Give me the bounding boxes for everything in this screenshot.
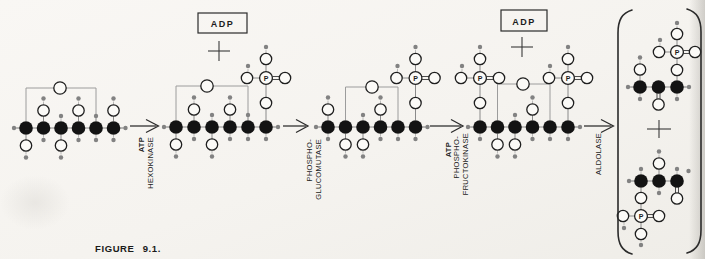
atom-labels: P	[409, 72, 422, 85]
hydrogen-dot	[566, 137, 570, 141]
bond-lines	[623, 155, 679, 243]
hydrogen-dot	[478, 137, 482, 141]
hydrogen-dot	[210, 154, 214, 158]
atom-labels: P	[671, 46, 684, 59]
oxygen-atoms	[170, 53, 290, 150]
carbon-atom	[89, 121, 103, 135]
oxygen-atom	[474, 97, 485, 108]
carbon-atom	[652, 174, 666, 188]
hydrogen-dot	[264, 45, 268, 49]
six-carbon-molecule-3: P	[314, 45, 440, 159]
six-carbon-molecule-2: P	[162, 45, 291, 159]
hydrogen-dot	[513, 113, 517, 117]
hydrogen-dot	[530, 137, 534, 141]
hydrogen-dot	[460, 64, 464, 68]
hydrogen-dot	[59, 114, 63, 118]
phosphorus-label: P	[675, 49, 680, 56]
oxygen-atom	[671, 193, 682, 204]
hydrogen-dot	[343, 154, 347, 158]
oxygen-atom	[375, 104, 386, 115]
hydrogen-dot	[314, 125, 318, 129]
hydrogen-dot	[478, 45, 482, 49]
hydrogen-dot	[638, 55, 642, 59]
oxygen-atom	[241, 72, 252, 83]
carbon-atom	[473, 120, 487, 134]
hydrogen-dot	[566, 45, 570, 49]
oxygen-atom	[429, 72, 440, 83]
hydrogen-dot	[94, 138, 98, 142]
carbon-atom	[321, 120, 335, 134]
hydrogen-dot	[687, 85, 691, 89]
carbon-atom	[374, 120, 388, 134]
hydrogen-dot	[162, 125, 166, 129]
oxygen-atoms	[455, 53, 592, 150]
carbon-atom	[356, 120, 370, 134]
oxygen-atom	[260, 53, 271, 64]
hydrogen-dot	[639, 167, 643, 171]
oxygen-atom	[509, 139, 520, 150]
hydrogen-dot	[530, 95, 534, 99]
oxygen-atom	[493, 72, 504, 83]
oxygen-atom	[617, 210, 628, 221]
oxygen-atom	[562, 53, 573, 64]
hydrogen-dot	[378, 95, 382, 99]
oxygen-atom	[340, 139, 351, 150]
carbon-atom	[543, 120, 557, 134]
adp-box-1: ADP	[198, 13, 247, 33]
adp-label-1: ADP	[211, 19, 235, 29]
carbon-atom	[409, 120, 423, 134]
oxygen-atom	[322, 104, 333, 115]
oxygen-atom	[635, 192, 646, 203]
oxygen-atom	[410, 53, 421, 64]
oxygen-atom	[653, 99, 664, 110]
hydrogen-dot	[425, 125, 429, 129]
carbon-atoms	[634, 174, 684, 188]
oxygen-atom	[653, 210, 664, 221]
oxygen-atom	[517, 78, 529, 90]
hydrogen-dot	[396, 137, 400, 141]
oxygen-atoms	[634, 28, 700, 110]
carbon-atom	[169, 120, 183, 134]
reaction-arrow-2	[283, 120, 308, 133]
hydrogen-dot	[276, 125, 280, 129]
hydrogen-dot	[228, 137, 232, 141]
hydrogen-dot	[578, 125, 582, 129]
hydrogen-dot	[228, 95, 232, 99]
oxygen-atom	[581, 72, 592, 83]
oxygen-atom	[635, 228, 646, 239]
phosphorus-label: P	[566, 75, 571, 82]
phosphorus-label: P	[264, 75, 269, 82]
carbon-atom	[508, 120, 522, 134]
hydrogen-dot	[548, 64, 552, 68]
hydrogen-dot	[395, 64, 399, 68]
plus-icon-2	[511, 37, 533, 57]
oxygen-atom	[206, 139, 217, 150]
hydrogen-dot	[675, 21, 679, 25]
hydrogen-dot	[210, 113, 214, 117]
carbon-atom	[37, 121, 51, 135]
oxygen-atom	[73, 105, 84, 116]
hydrogen-dot	[111, 96, 115, 100]
carbon-atom	[241, 120, 255, 134]
hydrogen-dot	[627, 179, 631, 183]
phosphorus-label: P	[413, 75, 418, 82]
hydrogen-dot	[24, 155, 28, 159]
hydrogen-dot	[657, 149, 661, 153]
hydrogen-dot	[264, 137, 268, 141]
hydrogen-dot	[658, 38, 662, 42]
hydrogen-dot	[111, 138, 115, 142]
phosphorus-label: P	[478, 75, 483, 82]
carbon-atom	[54, 121, 68, 135]
hydrogen-dot	[548, 137, 552, 141]
oxygen-atom	[671, 28, 682, 39]
oxygen-atom	[653, 158, 664, 169]
carbon-atoms	[633, 80, 684, 94]
carbon-atom	[259, 120, 273, 134]
carbon-atom	[187, 120, 201, 134]
oxygen-atom	[543, 72, 554, 83]
enzyme-label-fructokinase: FRUCTOKINASE	[461, 133, 470, 195]
carbon-atom	[634, 174, 648, 188]
carbon-atom	[223, 120, 237, 134]
oxygen-atom	[201, 80, 213, 92]
carbon-atom	[670, 174, 684, 188]
